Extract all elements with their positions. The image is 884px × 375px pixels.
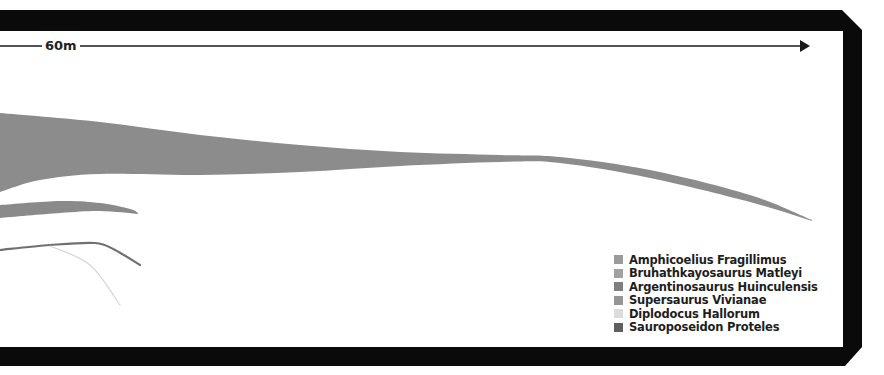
- legend-label: Diplodocus Hallorum: [629, 307, 760, 321]
- series-amphicoelius-fragillimus: [0, 113, 812, 221]
- series-supersaurus-vivianae: [0, 201, 138, 218]
- legend-swatch: [614, 323, 623, 332]
- legend-label: Bruhathkayosaurus Matleyi: [629, 266, 802, 280]
- scale-label: 60m: [42, 38, 80, 54]
- legend-swatch: [614, 255, 623, 264]
- legend-swatch: [614, 296, 623, 305]
- scale-arrowhead-icon: [800, 40, 810, 52]
- series-diplodocus-hallorum: [50, 246, 120, 305]
- legend-label: Amphicoelius Fragillimus: [629, 253, 786, 267]
- legend-swatch: [614, 269, 623, 278]
- legend-item: Amphicoelius Fragillimus: [614, 253, 818, 267]
- legend-swatch: [614, 309, 623, 318]
- legend-item: Argentinosaurus Huinculensis: [614, 280, 818, 294]
- legend-item: Bruhathkayosaurus Matleyi: [614, 267, 818, 281]
- legend-item: Diplodocus Hallorum: [614, 307, 818, 321]
- legend-item: Supersaurus Vivianae: [614, 294, 818, 308]
- legend-item: Sauroposeidon Proteles: [614, 321, 818, 335]
- legend-label: Sauroposeidon Proteles: [629, 320, 779, 334]
- legend-swatch: [614, 282, 623, 291]
- legend: Amphicoelius Fragillimus Bruhathkayosaur…: [614, 253, 818, 334]
- legend-label: Supersaurus Vivianae: [629, 293, 766, 307]
- legend-label: Argentinosaurus Huinculensis: [629, 280, 818, 294]
